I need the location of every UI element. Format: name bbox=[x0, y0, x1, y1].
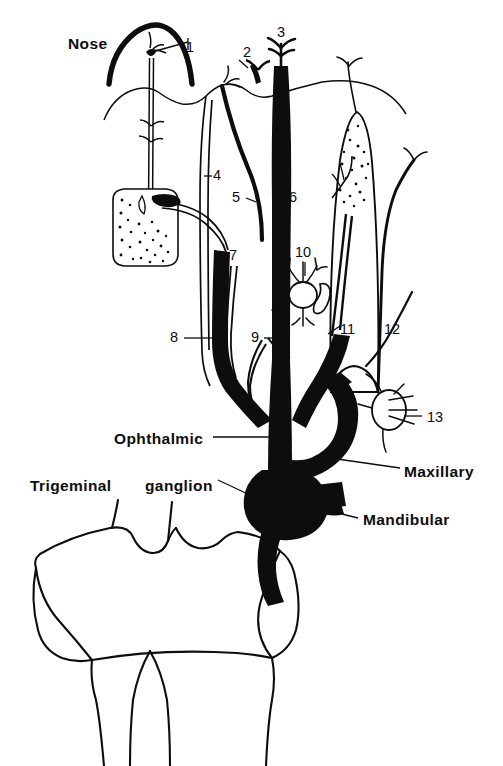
label-trigeminal: Trigeminal bbox=[30, 478, 112, 494]
callout-12: 12 bbox=[384, 322, 400, 337]
trigeminal-nerve-diagram bbox=[0, 0, 503, 766]
callout-5: 5 bbox=[232, 190, 240, 205]
nerve-branch-8 bbox=[212, 250, 272, 428]
mandibular-division bbox=[258, 530, 285, 606]
anatomical-figure: Nose Ophthalmic Trigeminal ganglion Maxi… bbox=[0, 0, 503, 766]
nerve-branch-2 bbox=[246, 60, 270, 84]
callout-2: 2 bbox=[243, 45, 251, 60]
nerve-branch-4 bbox=[200, 96, 212, 386]
label-ophthalmic: Ophthalmic bbox=[114, 431, 203, 447]
stippled-gland bbox=[113, 189, 228, 266]
nerve-branch-3-tips bbox=[268, 38, 295, 66]
trigeminal-ganglion bbox=[244, 470, 346, 540]
ophthalmic-division bbox=[272, 66, 291, 360]
ophthalmic-trunk-lower bbox=[268, 360, 292, 470]
callout-8: 8 bbox=[170, 330, 178, 345]
label-ganglion: ganglion bbox=[145, 478, 213, 494]
callout-6: 6 bbox=[289, 190, 297, 205]
label-mandibular: Mandibular bbox=[363, 512, 450, 528]
nerve-branch-5 bbox=[222, 66, 262, 240]
label-maxillary: Maxillary bbox=[404, 464, 474, 480]
nerve-branch-1 bbox=[139, 32, 166, 210]
callout-9: 9 bbox=[251, 330, 259, 345]
callout-4: 4 bbox=[213, 168, 221, 183]
callout-1: 1 bbox=[186, 40, 194, 55]
callout-11: 11 bbox=[340, 322, 355, 337]
callout-7: 7 bbox=[229, 248, 237, 263]
brainstem bbox=[33, 500, 298, 766]
label-nose: Nose bbox=[68, 36, 108, 52]
callout-10: 10 bbox=[295, 245, 311, 260]
callout-13: 13 bbox=[427, 410, 443, 425]
callout-3: 3 bbox=[277, 25, 285, 40]
